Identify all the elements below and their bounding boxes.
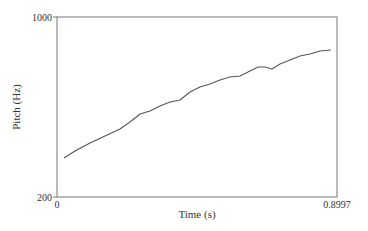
y-tick-label-min: 200	[37, 192, 52, 203]
y-axis-label: Pitch (Hz)	[10, 84, 23, 130]
x-axis-label: Time (s)	[178, 208, 216, 221]
plot-frame	[57, 17, 337, 197]
x-tick-label-max: 0.8997	[323, 199, 351, 210]
pitch-chart: 1000 200 0 0.8997 Time (s) Pitch (Hz)	[0, 0, 368, 231]
pitch-line	[64, 50, 331, 158]
x-tick-label-min: 0	[55, 199, 60, 210]
y-tick-label-max: 1000	[32, 12, 52, 23]
